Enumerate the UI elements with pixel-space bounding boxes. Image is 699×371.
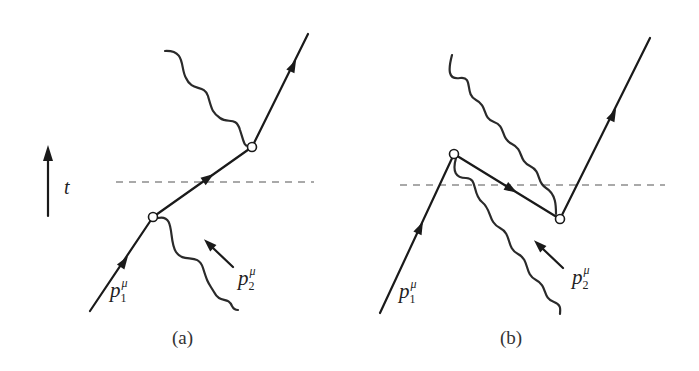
panel-a-outgoing-photon [165,51,248,146]
panel-b-photon-momentum-arrow [543,249,563,268]
panel-b-outgoing-fermion [560,38,650,219]
panel-a-p2-label: pμ2 [236,264,256,293]
time-axis: t [43,145,70,216]
time-axis-label: t [64,176,70,198]
feynman-diagram-figure: t pμ1 pμ2 (a) [0,0,699,371]
panel-a-incoming-photon [158,218,238,310]
panel-b-p2-label: pμ2 [570,263,590,292]
panel-a-vertex-2 [248,143,257,152]
panel-b-p1-label: pμ1 [397,277,417,306]
panel-a-vertex-1 [149,213,158,222]
panel-a-outgoing-fermion [252,34,308,147]
panel-a-photon-momentum-arrow [213,248,233,267]
panel-b-vertex-2 [556,215,565,224]
panel-b-caption: (b) [500,327,522,349]
panel-a-caption: (a) [172,327,193,349]
panel-b-vertex-1 [450,150,459,159]
panel-b-incoming-fermion [380,154,454,313]
panel-b-incoming-photon [454,158,560,314]
panel-a-outgoing-fermion-arrow-icon [286,58,300,74]
panel-b-propagator-arrow-icon [504,182,520,196]
panel-b-outgoing-photon [450,55,556,214]
panel-b: pμ1 pμ2 (b) [380,38,665,349]
time-arrow-head-icon [43,145,53,161]
panel-a-p1-label: pμ1 [108,276,128,305]
panel-b-incoming-fermion-arrow-icon [413,220,427,236]
panel-a: pμ1 pμ2 (a) [90,34,314,349]
